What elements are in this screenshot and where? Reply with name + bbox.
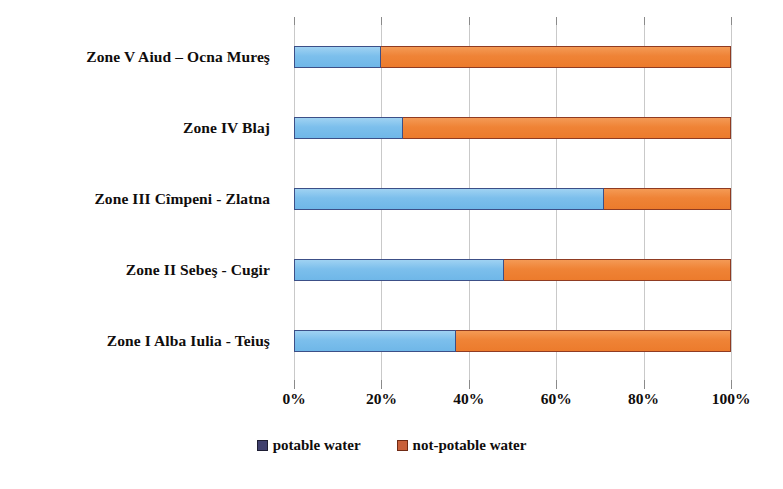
axis-tick-mark xyxy=(731,17,732,25)
bar-segment-potable-water xyxy=(294,117,403,139)
category-label: Zone II Sebeş - Cugir xyxy=(126,259,270,281)
x-axis-tick-label: 100% xyxy=(712,390,751,408)
category-label: Zone V Aiud – Ocna Mureş xyxy=(86,46,270,68)
chart-legend: potable water not-potable water xyxy=(0,437,783,454)
legend-swatch-icon-not-potable xyxy=(397,440,408,451)
axis-tick-mark xyxy=(381,380,382,389)
bar-row xyxy=(294,46,731,68)
axis-tick-mark xyxy=(731,380,732,389)
legend-swatch-icon-potable xyxy=(257,440,268,451)
category-label: Zone IV Blaj xyxy=(183,117,270,139)
legend-label: not-potable water xyxy=(413,437,527,454)
bar-segment-not-potable-water xyxy=(381,46,731,68)
bar-segment-potable-water xyxy=(294,46,381,68)
category-label: Zone III Cîmpeni - Zlatna xyxy=(94,188,270,210)
axis-tick-mark xyxy=(381,17,382,25)
axis-tick-mark xyxy=(469,17,470,25)
x-axis-tick-label: 0% xyxy=(282,390,305,408)
bar-segment-potable-water xyxy=(294,259,504,281)
axis-tick-mark xyxy=(644,17,645,25)
bar-segment-not-potable-water xyxy=(604,188,731,210)
stacked-bar-chart: Zone V Aiud – Ocna Mureş Zone IV Blaj Zo… xyxy=(0,0,783,489)
bar-row xyxy=(294,330,731,352)
x-axis-tick-label: 20% xyxy=(366,390,397,408)
legend-item-potable-water: potable water xyxy=(257,437,361,454)
bar-segment-not-potable-water xyxy=(403,117,731,139)
bar-row xyxy=(294,259,731,281)
x-axis-tick-label: 40% xyxy=(453,390,484,408)
bar-segment-not-potable-water xyxy=(456,330,731,352)
bar-segment-potable-water xyxy=(294,188,604,210)
x-axis-tick-labels: 0%20%40%60%80%100% xyxy=(294,390,731,416)
bar-segment-not-potable-water xyxy=(504,259,731,281)
axis-tick-mark xyxy=(469,380,470,389)
bar-row xyxy=(294,188,731,210)
category-axis-labels: Zone V Aiud – Ocna Mureş Zone IV Blaj Zo… xyxy=(0,25,282,380)
plot-area xyxy=(294,25,731,380)
axis-tick-mark xyxy=(556,380,557,389)
bar-row xyxy=(294,117,731,139)
bar-segment-potable-water xyxy=(294,330,456,352)
legend-item-not-potable-water: not-potable water xyxy=(397,437,527,454)
x-axis-tick-label: 80% xyxy=(628,390,659,408)
axis-tick-mark xyxy=(294,380,295,389)
category-label: Zone I Alba Iulia - Teiuş xyxy=(107,330,270,352)
axis-tick-mark xyxy=(644,380,645,389)
axis-tick-mark xyxy=(556,17,557,25)
legend-label: potable water xyxy=(273,437,361,454)
gridline xyxy=(731,25,732,380)
axis-tick-mark xyxy=(294,17,295,25)
x-axis-tick-label: 60% xyxy=(541,390,572,408)
